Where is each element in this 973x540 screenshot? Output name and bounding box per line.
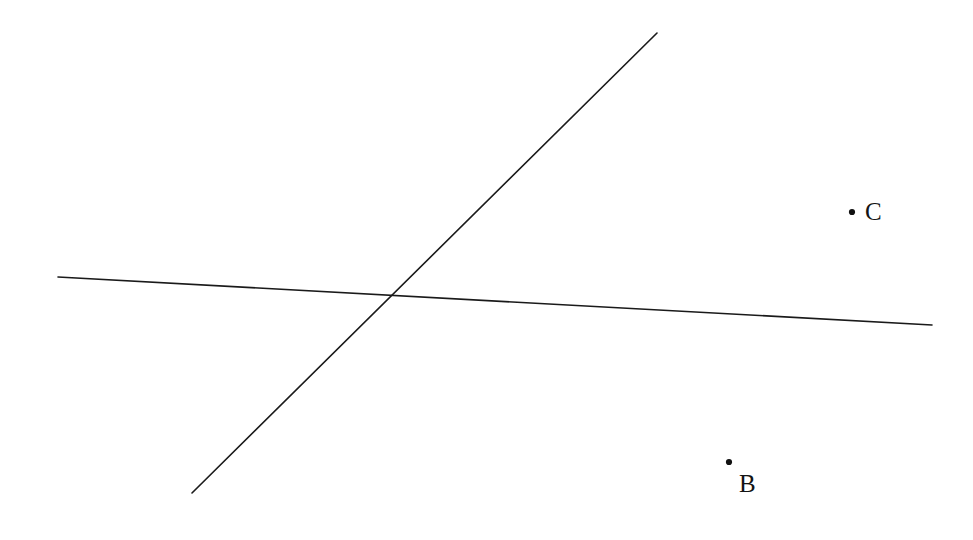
point-b-label: B [739,471,756,496]
point-c-label: C [865,199,882,224]
figure-background [0,0,973,540]
figure-drawing-surface [0,0,973,540]
point-c-dot [849,209,855,215]
point-b-dot [726,459,732,465]
geometry-figure-canvas: B C [0,0,973,540]
